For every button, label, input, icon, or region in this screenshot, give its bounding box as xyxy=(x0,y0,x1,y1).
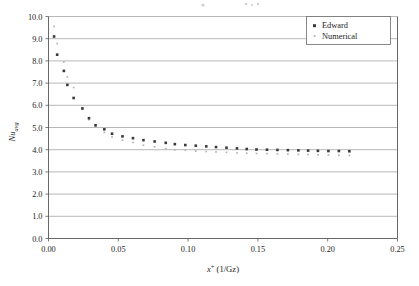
data-point-edward-9 xyxy=(111,132,114,135)
y-tick-label-8: 8.0 xyxy=(32,57,42,66)
data-point-edward-25 xyxy=(276,149,279,152)
data-point-edward-3 xyxy=(66,84,69,87)
data-point-edward-19 xyxy=(215,146,218,149)
data-point-edward-26 xyxy=(287,149,290,152)
y-tick-label-6: 6.0 xyxy=(32,101,42,110)
data-point-edward-20 xyxy=(225,146,228,149)
y-axis-title-base: Nu xyxy=(7,131,17,142)
data-point-numerical-29 xyxy=(317,154,319,156)
data-point-numerical-24 xyxy=(266,153,268,155)
legend-marker-edward xyxy=(313,24,316,27)
data-point-numerical-21 xyxy=(236,152,238,154)
x-tick-label-2: 0.10 xyxy=(181,245,196,254)
data-point-numerical-28 xyxy=(307,154,309,156)
data-point-numerical-31 xyxy=(338,154,340,156)
data-point-numerical-23 xyxy=(256,153,258,155)
chart-legend: Edward Numerical xyxy=(307,17,391,45)
data-point-numerical-1 xyxy=(56,43,58,45)
data-point-numerical-19 xyxy=(215,151,217,153)
y-tick-label-3: 3.0 xyxy=(32,168,42,177)
data-point-edward-21 xyxy=(236,147,239,150)
data-point-edward-30 xyxy=(327,150,330,153)
data-point-edward-4 xyxy=(72,97,75,100)
data-point-numerical-30 xyxy=(328,154,330,156)
y-axis-title-subscript: avg xyxy=(12,123,19,132)
data-point-numerical-32 xyxy=(348,155,350,157)
data-point-edward-10 xyxy=(121,135,124,138)
data-point-numerical-18 xyxy=(205,151,207,153)
data-point-edward-27 xyxy=(297,149,300,152)
data-point-edward-13 xyxy=(153,140,156,143)
data-point-edward-1 xyxy=(56,53,59,56)
x-tick-label-1: 0.05 xyxy=(111,245,126,254)
data-point-edward-0 xyxy=(53,35,56,38)
data-point-edward-24 xyxy=(266,148,269,151)
data-point-edward-31 xyxy=(338,150,341,153)
y-tick-label-5: 5.0 xyxy=(32,124,42,133)
data-point-numerical-17 xyxy=(195,150,197,152)
data-point-edward-12 xyxy=(142,139,145,142)
y-tick-label-7: 7.0 xyxy=(32,79,42,88)
data-point-numerical-3 xyxy=(67,76,69,78)
data-point-numerical-20 xyxy=(226,152,228,154)
data-point-numerical-2 xyxy=(63,61,65,63)
data-point-edward-5 xyxy=(81,107,84,110)
x-tick-label-4: 0.20 xyxy=(320,245,335,254)
data-point-numerical-27 xyxy=(298,154,300,156)
x-tick-label-5: 0.25 xyxy=(390,245,405,254)
data-point-numerical-8 xyxy=(103,132,105,134)
y-tick-label-4: 4.0 xyxy=(32,146,42,155)
data-point-edward-17 xyxy=(194,144,197,147)
data-point-numerical-10 xyxy=(122,139,124,141)
data-point-edward-22 xyxy=(245,148,248,151)
y-tick-label-1: 1.0 xyxy=(32,212,42,221)
data-point-numerical-26 xyxy=(287,153,289,155)
data-point-edward-6 xyxy=(88,117,91,120)
data-point-edward-28 xyxy=(307,149,310,152)
data-point-numerical-11 xyxy=(132,142,134,144)
data-point-numerical-14 xyxy=(165,148,167,150)
data-point-edward-16 xyxy=(184,144,187,147)
data-point-edward-14 xyxy=(164,142,167,145)
data-point-numerical-0 xyxy=(53,26,55,28)
data-point-numerical-13 xyxy=(154,146,156,148)
data-point-edward-23 xyxy=(255,148,258,151)
data-point-numerical-9 xyxy=(111,136,113,138)
data-point-numerical-15 xyxy=(174,149,176,151)
data-point-edward-15 xyxy=(174,143,177,146)
legend-marker-numerical xyxy=(314,35,316,37)
data-point-edward-11 xyxy=(132,137,135,140)
legend-label-edward: Edward xyxy=(322,21,349,30)
data-point-numerical-16 xyxy=(184,149,186,151)
figure-container: 0.01.02.03.04.05.06.07.08.09.010.0 0.000… xyxy=(0,0,419,286)
data-point-edward-29 xyxy=(317,150,320,153)
y-tick-label-0: 0.0 xyxy=(32,235,42,244)
x-axis-title-units: (1/Gz) xyxy=(214,264,239,274)
y-tick-label-9: 9.0 xyxy=(32,35,42,44)
y-tick-label-10: 10.0 xyxy=(28,13,43,22)
data-point-numerical-4 xyxy=(73,87,75,89)
data-point-edward-2 xyxy=(63,70,66,73)
data-point-numerical-22 xyxy=(246,152,248,154)
data-point-edward-32 xyxy=(348,150,351,153)
data-point-edward-7 xyxy=(94,124,97,127)
data-point-edward-8 xyxy=(103,128,106,131)
data-point-numerical-12 xyxy=(143,144,145,146)
legend-label-numerical: Numerical xyxy=(322,32,358,41)
scatter-chart: 0.01.02.03.04.05.06.07.08.09.010.0 0.000… xyxy=(0,0,419,286)
data-point-numerical-25 xyxy=(277,153,279,155)
x-tick-label-0: 0.00 xyxy=(41,245,56,254)
data-point-edward-18 xyxy=(205,145,208,148)
y-tick-label-2: 2.0 xyxy=(32,190,42,199)
x-tick-label-3: 0.15 xyxy=(251,245,266,254)
